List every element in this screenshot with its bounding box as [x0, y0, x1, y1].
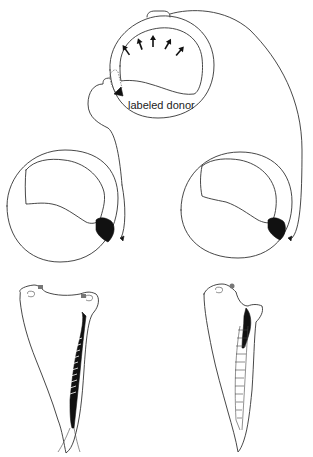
host-right-outer-outline [181, 152, 292, 258]
larva-right-body-outline [204, 284, 263, 452]
larva-left-body-outline [20, 285, 99, 453]
larva-left-head-eye [27, 291, 34, 297]
donor-label: labeled donor [128, 99, 195, 111]
larva-right [204, 284, 263, 453]
host-right-graft [268, 218, 285, 240]
transfer-arrowhead-right [288, 236, 292, 241]
larva-left [20, 285, 99, 453]
larva-left-otic-marker-2 [81, 294, 86, 298]
host-embryo-right [181, 152, 292, 258]
host-left-inner-outline [25, 159, 104, 223]
host-left-outer-outline [7, 150, 118, 262]
larva-left-otic-marker [38, 285, 43, 289]
host-left-graft [96, 218, 114, 242]
transfer-path-right [170, 11, 302, 238]
left-path-end [121, 185, 125, 238]
larva-right-labeled-region [242, 308, 251, 348]
larva-right-head-eye [215, 287, 222, 293]
larva-right-otic-marker [230, 284, 235, 289]
donor-inner-outline [120, 28, 203, 95]
diagram-svg [0, 0, 313, 457]
larva-left-head-eye-2 [85, 295, 92, 301]
arrow-icon [150, 35, 156, 47]
diagram-canvas: labeled donor [0, 0, 313, 457]
host-right-inner-outline [201, 159, 277, 223]
arrow-icon [135, 37, 145, 50]
migration-arrows [120, 35, 186, 58]
arrow-icon [162, 37, 173, 50]
host-embryo-left [7, 150, 118, 262]
arrow-icon [174, 44, 186, 57]
